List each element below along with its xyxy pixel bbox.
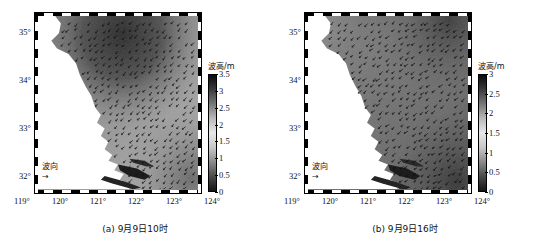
- wave-direction-label: 波向: [42, 162, 58, 171]
- colorbar-tick: 3: [219, 86, 223, 96]
- y-tick-label: 33°: [19, 123, 31, 133]
- x-tick-label: 121°: [90, 196, 106, 206]
- colorbar-tick: 1: [219, 153, 223, 163]
- colorbar-tick: 3: [489, 69, 493, 79]
- colorbar-tick: 2: [219, 120, 223, 130]
- x-tick-label: 121°: [360, 196, 376, 206]
- panel-a: 35° 34° 33° 32°: [0, 0, 270, 247]
- map-border-right: [468, 13, 471, 193]
- x-tick-label: 123°: [166, 196, 182, 206]
- map-border-right: [198, 13, 201, 193]
- x-tick-label: 122°: [398, 196, 414, 206]
- wave-direction-label: 波向: [312, 162, 328, 171]
- y-tick-label: 35°: [19, 27, 31, 37]
- panel-a-colorbar: 波高/m 3.532.521.510.50: [208, 60, 270, 192]
- panel-b: 35° 34° 33° 32°: [270, 0, 540, 247]
- map-border-top: [35, 13, 201, 16]
- y-tick-label: 32°: [19, 171, 31, 181]
- colorbar-title: 波高/m: [208, 60, 270, 71]
- wave-direction-arrows: [308, 16, 468, 189]
- wave-direction-arrows: [38, 16, 198, 189]
- panel-b-plot-area: 波向 →: [304, 12, 472, 194]
- x-tick-label: 120°: [52, 196, 68, 206]
- colorbar-title: 波高/m: [478, 60, 540, 71]
- panel-b-wave-direction-key: 波向 →: [312, 160, 328, 181]
- x-tick-label: 124°: [474, 196, 490, 206]
- panel-a-wave-direction-key: 波向 →: [42, 160, 58, 181]
- y-tick-label: 35°: [289, 27, 301, 37]
- panel-a-x-axis: 119° 120° 121° 122° 123° 124°: [14, 196, 222, 210]
- x-tick-label: 120°: [322, 196, 338, 206]
- panel-a-caption: (a) 9月9日10时: [0, 222, 270, 235]
- map-border-bottom: [35, 190, 201, 193]
- panel-b-sea-field: [308, 16, 468, 190]
- map-border-left: [35, 13, 38, 193]
- wave-direction-arrow-icon: →: [42, 172, 58, 181]
- colorbar-tick-labels: 3.532.521.510.50: [219, 74, 270, 192]
- y-tick-label: 32°: [289, 171, 301, 181]
- y-tick-label: 34°: [19, 75, 31, 85]
- panel-b-x-axis: 119° 120° 121° 122° 123° 124°: [284, 196, 492, 210]
- colorbar-tick-labels: 32.521.510.50: [489, 74, 540, 192]
- panel-b-y-axis: 35° 34° 33° 32°: [270, 12, 301, 194]
- colorbar-tick: 2.5: [489, 89, 500, 99]
- map-border-bottom: [305, 190, 471, 193]
- panel-b-caption: (b) 9月9日16时: [270, 222, 540, 235]
- panel-a-y-axis: 35° 34° 33° 32°: [0, 12, 31, 194]
- map-border-left: [305, 13, 308, 193]
- panel-a-sea-field: [38, 16, 198, 190]
- x-tick-label: 124°: [204, 196, 220, 206]
- colorbar-tick: 0: [219, 187, 223, 197]
- colorbar-tick: 2.5: [219, 103, 230, 113]
- y-tick-label: 33°: [289, 123, 301, 133]
- x-tick-label: 119°: [14, 196, 30, 206]
- x-tick-label: 119°: [284, 196, 300, 206]
- colorbar-tick: 2: [489, 108, 493, 118]
- x-tick-label: 123°: [436, 196, 452, 206]
- map-border-top: [305, 13, 471, 16]
- panel-b-map-frame: [304, 12, 472, 194]
- panel-b-colorbar: 波高/m 32.521.510.50: [478, 60, 540, 192]
- y-tick-label: 34°: [289, 75, 301, 85]
- colorbar-tick: 0: [489, 187, 493, 197]
- colorbar-tick: 0.5: [219, 170, 230, 180]
- x-tick-label: 122°: [128, 196, 144, 206]
- colorbar-tick: 1.5: [489, 128, 500, 138]
- colorbar-tick: 1.5: [219, 136, 230, 146]
- panel-a-plot-area: 波向 →: [34, 12, 202, 194]
- colorbar-tick: 3.5: [219, 69, 230, 79]
- wave-direction-arrow-icon: →: [312, 172, 328, 181]
- wave-height-figure: 35° 34° 33° 32°: [0, 0, 540, 247]
- colorbar-tick: 1: [489, 148, 493, 158]
- panel-a-map-frame: [34, 12, 202, 194]
- colorbar-tick: 0.5: [489, 167, 500, 177]
